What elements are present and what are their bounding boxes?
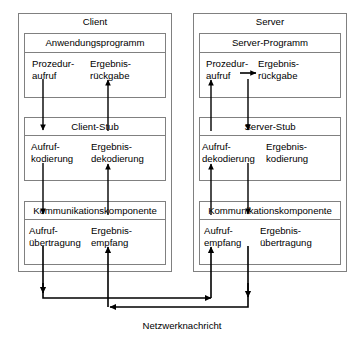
client-application-left-label-line1: Prozedur-: [32, 58, 74, 70]
client-application-header: Anwendungsprogramm: [25, 37, 165, 49]
server-stub-right-label-line2: kodierung: [266, 153, 308, 165]
client-stub-right-label-line1: Ergebnis-: [91, 141, 132, 153]
server-application-right-label-line1: Ergebnis-: [258, 58, 299, 70]
server-heading: Server: [193, 16, 347, 28]
server-stub-header: Server-Stub: [200, 121, 340, 133]
network-message-label: Netzwerknachricht: [82, 320, 282, 332]
server-communication-left-label-line1: Aufruf-: [204, 225, 233, 237]
server-application-header: Server-Programm: [200, 37, 340, 49]
client-communication-left-label-line2: übertragung: [29, 237, 81, 249]
server-communication-left-label-line2: empfang: [204, 237, 241, 249]
server-application-right-label-line2: rückgabe: [258, 70, 297, 82]
server-communication-right-label-line2: übertragung: [260, 237, 312, 249]
client-application-left-label-line2: aufruf: [32, 70, 57, 82]
client-communication-left-label-line1: Aufruf-: [29, 225, 58, 237]
server-communication-header: Kommunikationskomponente: [200, 205, 340, 217]
client-heading: Client: [18, 16, 172, 28]
client-stub-left-label-line1: Aufruf-: [31, 141, 60, 153]
client-communication-right-label-line2: empfang: [91, 237, 128, 249]
client-stub-left-label-line2: kodierung: [31, 153, 73, 165]
client-communication-header: Kommunikationskomponente: [25, 205, 165, 217]
client-application-right-label-line2: rückgabe: [90, 70, 129, 82]
server-stub-left-label-line2: dekodierung: [202, 153, 255, 165]
server-communication-right-label-line1: Ergebnis-: [260, 225, 301, 237]
server-application-left-label-line2: aufruf: [206, 70, 231, 82]
rpc-diagram: Client Anwendungsprogramm Prozedur- aufr…: [0, 0, 364, 344]
diagram-vector-layer: [0, 0, 364, 344]
client-stub-header: Client-Stub: [25, 121, 165, 133]
server-stub-left-label-line1: Aufruf-: [202, 141, 231, 153]
client-communication-right-label-line1: Ergebnis-: [91, 225, 132, 237]
server-stub-right-label-line1: Ergebnis-: [266, 141, 307, 153]
server-application-left-label-line1: Prozedur-: [206, 58, 248, 70]
client-stub-right-label-line2: dekodierung: [91, 153, 144, 165]
client-application-right-label-line1: Ergebnis-: [90, 58, 131, 70]
